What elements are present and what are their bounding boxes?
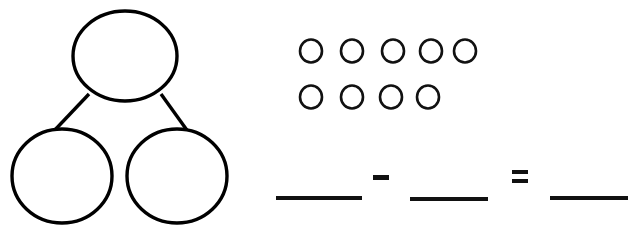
number-bond	[0, 0, 632, 242]
minus-sign	[373, 175, 389, 180]
counter-circle[interactable]	[380, 86, 402, 109]
number-bond-whole-circle[interactable]	[73, 11, 177, 101]
counter-circle[interactable]	[454, 40, 476, 63]
minuend-blank[interactable]	[276, 196, 362, 200]
equals-sign-bar	[512, 179, 528, 183]
counter-circle[interactable]	[300, 40, 322, 63]
counter-circle[interactable]	[341, 86, 363, 109]
counter-circle[interactable]	[420, 40, 442, 63]
worksheet-canvas: Number bond and subtraction sentence	[0, 0, 632, 242]
counter-row	[300, 40, 476, 63]
counter-circle[interactable]	[300, 86, 322, 109]
equals-sign	[512, 170, 528, 183]
counter-circle[interactable]	[382, 40, 404, 63]
number-bond-part-circle-right[interactable]	[127, 129, 227, 223]
counter-circle[interactable]	[341, 40, 363, 63]
subtraction-sentence	[276, 170, 628, 201]
number-bond-part-circle-left[interactable]	[12, 129, 112, 223]
counter-row	[300, 86, 439, 109]
bond-connector-right	[161, 94, 189, 133]
difference-blank[interactable]	[550, 196, 628, 200]
bond-connector-left	[52, 94, 89, 133]
equals-sign-bar	[512, 170, 528, 174]
subtrahend-blank[interactable]	[410, 197, 488, 201]
counter-group	[300, 40, 476, 109]
counter-circle[interactable]	[417, 86, 439, 109]
minus-sign-bar	[373, 175, 389, 180]
